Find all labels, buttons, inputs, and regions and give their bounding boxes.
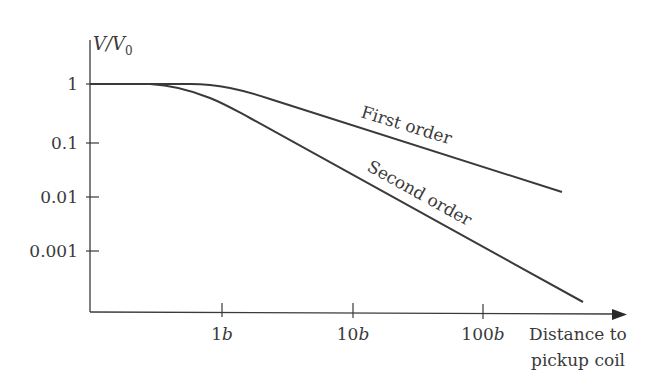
y-tick-label: 0.01 — [40, 187, 78, 207]
first-order-curve — [90, 84, 562, 192]
y-tick-label: 1 — [67, 74, 78, 94]
x-ticks — [222, 303, 483, 319]
y-tick-label: 0.001 — [29, 241, 78, 261]
x-axis-arrow-icon — [612, 309, 627, 320]
x-tick-label: 1b — [211, 324, 233, 344]
x-tick-label: 10b — [337, 324, 370, 344]
x-axis-label-line1: Distance to — [529, 324, 627, 344]
first-order-label: First order — [359, 102, 455, 149]
y-axis-label: V/V0 — [93, 33, 133, 58]
chart: 1 0.1 0.01 0.001 V/V0 1b 10b 100b Distan… — [0, 0, 658, 386]
x-axis — [90, 312, 614, 314]
y-ticks — [86, 84, 99, 251]
y-tick-label: 0.1 — [51, 133, 78, 153]
second-order-label: Second order — [364, 156, 476, 230]
x-axis-label-line2: pickup coil — [531, 350, 625, 370]
x-tick-label: 100b — [461, 324, 504, 344]
second-order-curve — [90, 84, 583, 302]
